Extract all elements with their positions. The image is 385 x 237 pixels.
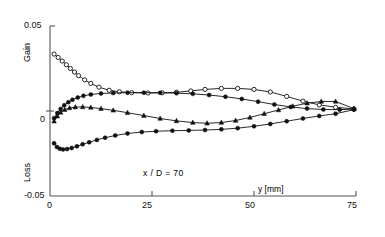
x-axis-tick-label-25: 25 bbox=[142, 200, 152, 210]
chart-plot-area bbox=[0, 0, 385, 237]
y-axis-tick-label-zero: 0 bbox=[40, 114, 45, 124]
y-axis-tick-label-bottom: -0.05 bbox=[24, 190, 45, 200]
x-axis-tick-label-0: 0 bbox=[47, 200, 52, 210]
y-axis-loss-label: Loss bbox=[22, 163, 32, 182]
x-axis-tick-label-75: 75 bbox=[347, 200, 357, 210]
y-axis-tick-label-top: 0.05 bbox=[24, 20, 42, 30]
chart-annotation-xd: x / D = 70 bbox=[143, 168, 184, 178]
chart-figure: 0.05 0 -0.05 0 25 50 75 Gain Loss y [mm]… bbox=[0, 0, 385, 237]
x-axis-title: y [mm] bbox=[258, 184, 284, 194]
x-axis-tick-label-50: 50 bbox=[245, 200, 255, 210]
chart-series-group bbox=[52, 52, 356, 151]
y-axis-gain-label: Gain bbox=[22, 43, 32, 62]
chart-axes bbox=[46, 26, 356, 196]
